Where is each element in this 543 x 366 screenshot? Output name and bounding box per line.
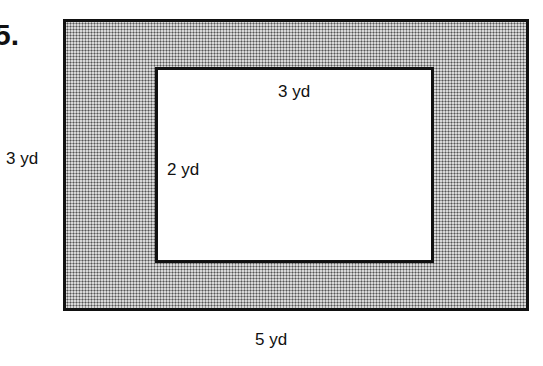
outer-height-label: 3 yd	[6, 149, 38, 169]
problem-number: 5.	[0, 18, 19, 52]
outer-width-label: 5 yd	[255, 330, 287, 350]
inner-width-label: 3 yd	[278, 82, 310, 102]
inner-height-label: 2 yd	[167, 160, 199, 180]
